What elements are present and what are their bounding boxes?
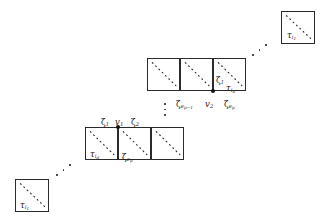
ellipsis-upper-right-icon	[252, 44, 270, 57]
dotted-diagonal-icon	[152, 128, 183, 159]
label-inner-middle-row-2: τid	[226, 84, 235, 94]
vertex-dot-middle-row-1	[211, 89, 215, 93]
dotted-diagonal-icon	[148, 59, 179, 90]
ellipsis-center-icon	[164, 103, 168, 119]
label-below-middle-row-3: ζep	[224, 100, 235, 110]
figure-canvas: τi1ζ1τidζep−1v2ζepτidζepζ1v1ζ2τi1	[0, 0, 324, 217]
label-below-middle-row-2: v2	[205, 100, 213, 109]
label-inner-top-right-1: τi1	[287, 31, 296, 41]
square-cell-middle-row-1	[147, 58, 180, 91]
label-inner-lower-row-2: ζep	[122, 153, 133, 163]
label-inner-bottom-left-1: τi1	[20, 201, 29, 211]
label-inner-lower-row-1: τid	[90, 150, 99, 160]
ellipsis-lower-left-icon	[56, 164, 74, 177]
square-cell-middle-row-2	[180, 58, 213, 91]
square-cell-lower-row-3	[151, 127, 184, 160]
label-above-lower-row-1: ζ1	[101, 118, 109, 127]
dotted-diagonal-icon	[181, 59, 212, 90]
label-inner-middle-row-1: ζ1	[216, 76, 224, 85]
label-above-lower-row-3: ζ2	[131, 118, 139, 127]
label-below-middle-row-1: ζep−1	[176, 100, 193, 110]
